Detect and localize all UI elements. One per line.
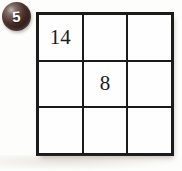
problem-number-badge: 5 [2,2,31,31]
grid-cell-r0c1 [84,15,127,60]
grid-cell-r1c0 [39,62,82,107]
puzzle-grid: 14 8 [36,12,174,156]
grid-cell-r2c0 [39,108,82,153]
grid-cell-r0c2 [128,15,171,60]
cell-value: 14 [50,27,71,48]
grid-cell-r2c2 [128,108,171,153]
problem-number: 5 [12,9,21,25]
grid-cell-r0c0: 14 [39,15,82,60]
grid-cell-r2c1 [84,108,127,153]
worksheet-page: 5 14 8 [0,0,182,171]
cell-value: 8 [100,73,111,94]
grid-cell-r1c1: 8 [84,62,127,107]
grid-cell-r1c2 [128,62,171,107]
